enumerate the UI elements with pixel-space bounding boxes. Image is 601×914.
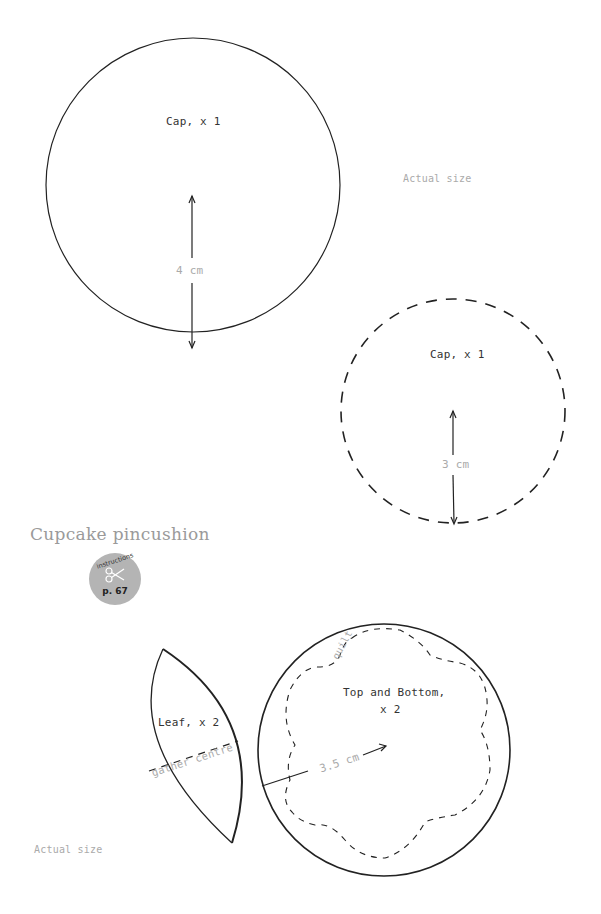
scissors-icon xyxy=(105,566,125,584)
quilt-line xyxy=(285,629,490,858)
actual-size-note-bottom: Actual size xyxy=(34,844,102,855)
leaf-label: Leaf, x 2 xyxy=(158,716,219,729)
top-bottom-outline xyxy=(258,624,510,876)
cap-small-radius-label: 3 cm xyxy=(442,458,469,471)
cap-large-radius-label: 4 cm xyxy=(176,264,203,277)
cap-large-outline xyxy=(46,38,340,332)
actual-size-note-top: Actual size xyxy=(403,173,471,184)
cap-small-label: Cap, x 1 xyxy=(430,348,485,361)
instructions-badge[interactable]: instructions p. 67 xyxy=(89,553,141,605)
instructions-page-ref: p. 67 xyxy=(89,586,141,596)
top-bottom-label-line2: x 2 xyxy=(380,703,400,716)
cap-large-label: Cap, x 1 xyxy=(166,115,221,128)
section-title: Cupcake pincushion xyxy=(30,524,210,544)
pattern-sheet xyxy=(0,0,601,914)
top-bottom-label-line1: Top and Bottom, xyxy=(343,686,445,699)
